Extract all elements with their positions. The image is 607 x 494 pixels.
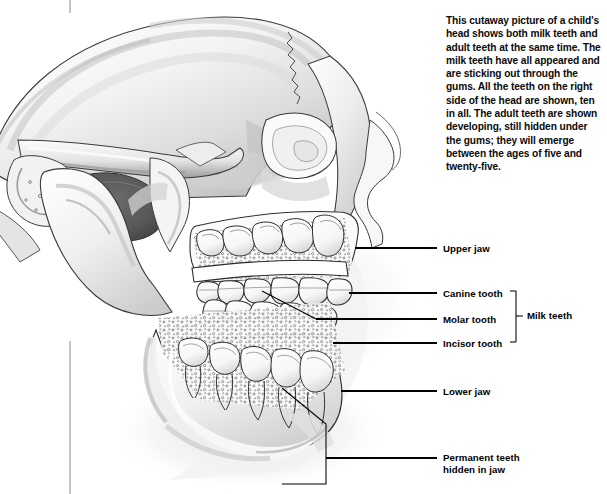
label-upper-jaw: Upper jaw bbox=[443, 243, 490, 255]
label-lower-jaw: Lower jaw bbox=[443, 386, 490, 398]
label-incisor-tooth: Incisor tooth bbox=[443, 338, 502, 350]
label-canine-tooth: Canine tooth bbox=[443, 288, 503, 300]
caption-text: This cutaway picture of a child's head s… bbox=[446, 14, 604, 174]
label-permanent-teeth: Permanent teeth hidden in jaw bbox=[443, 452, 520, 475]
label-milk-teeth: Milk teeth bbox=[527, 310, 572, 322]
milk-teeth-bracket bbox=[510, 291, 523, 342]
label-molar-tooth: Molar tooth bbox=[443, 314, 496, 326]
illustration-page: This cutaway picture of a child's head s… bbox=[0, 0, 607, 494]
pointer-molar-to-tooth bbox=[262, 291, 316, 319]
pointer-permanent-branch-2 bbox=[282, 458, 326, 484]
pointer-permanent-branch-1 bbox=[282, 388, 326, 458]
